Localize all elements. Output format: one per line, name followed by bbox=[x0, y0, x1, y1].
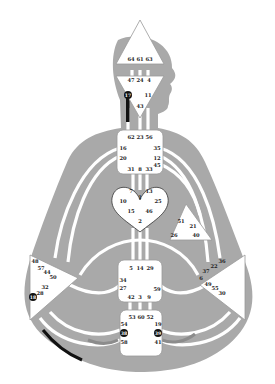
gate-33: 33 bbox=[145, 166, 153, 172]
gate-24: 24 bbox=[136, 77, 144, 83]
gate-21: 21 bbox=[189, 223, 197, 229]
gate-63: 63 bbox=[145, 56, 153, 62]
active-channel-17 bbox=[126, 98, 130, 122]
gate-36: 36 bbox=[218, 258, 226, 264]
gate-23: 23 bbox=[136, 134, 144, 140]
gate-38: 38 bbox=[121, 331, 127, 336]
gate-45: 45 bbox=[153, 162, 161, 168]
gate-42: 42 bbox=[127, 294, 135, 300]
gate-51: 51 bbox=[177, 218, 185, 224]
gate-8: 8 bbox=[138, 166, 142, 172]
gate-16: 16 bbox=[119, 145, 127, 151]
bodygraph: 64 61 63 47 24 4 17 11 43 62 23 56 16 35… bbox=[0, 0, 275, 384]
gate-40: 40 bbox=[192, 232, 200, 238]
gate-15: 15 bbox=[127, 208, 135, 214]
gate-7: 7 bbox=[129, 188, 133, 194]
gate-37: 37 bbox=[202, 268, 210, 274]
gate-25: 25 bbox=[154, 198, 162, 204]
gate-61: 61 bbox=[136, 56, 144, 62]
gate-6: 6 bbox=[199, 275, 203, 281]
gate-43: 43 bbox=[136, 103, 144, 109]
gate-17: 17 bbox=[125, 93, 131, 98]
gate-9: 9 bbox=[147, 294, 151, 300]
gate-1: 1 bbox=[138, 194, 142, 200]
gate-59: 59 bbox=[153, 286, 161, 292]
gate-58: 58 bbox=[120, 339, 128, 345]
gate-26: 26 bbox=[170, 232, 178, 238]
gate-29: 29 bbox=[146, 265, 154, 271]
gate-10: 10 bbox=[119, 198, 127, 204]
gate-28: 28 bbox=[36, 290, 44, 296]
gate-47: 47 bbox=[127, 77, 135, 83]
gate-3: 3 bbox=[138, 294, 142, 300]
gate-50: 50 bbox=[49, 274, 57, 280]
gate-39: 39 bbox=[155, 331, 161, 336]
gate-54: 54 bbox=[120, 321, 128, 327]
gate-20: 20 bbox=[119, 155, 127, 161]
gate-56: 56 bbox=[145, 134, 153, 140]
gate-22: 22 bbox=[210, 263, 218, 269]
gate-60: 60 bbox=[137, 314, 145, 320]
gate-27: 27 bbox=[119, 285, 127, 291]
gate-13: 13 bbox=[145, 188, 153, 194]
gate-2: 2 bbox=[138, 218, 142, 224]
gate-35: 35 bbox=[153, 145, 161, 151]
gate-64: 64 bbox=[127, 56, 135, 62]
gate-52: 52 bbox=[146, 314, 154, 320]
gate-18: 18 bbox=[30, 295, 36, 300]
gate-4: 4 bbox=[147, 77, 151, 83]
gate-11: 11 bbox=[144, 92, 152, 98]
gate-5: 5 bbox=[129, 265, 133, 271]
gate-46: 46 bbox=[145, 208, 153, 214]
gate-62: 62 bbox=[127, 134, 135, 140]
gate-12: 12 bbox=[153, 155, 161, 161]
gate-34: 34 bbox=[119, 277, 127, 283]
gate-31: 31 bbox=[127, 166, 135, 172]
gate-14: 14 bbox=[136, 265, 144, 271]
gate-41: 41 bbox=[154, 339, 162, 345]
gate-19: 19 bbox=[154, 321, 162, 327]
gate-53: 53 bbox=[128, 314, 136, 320]
gate-30: 30 bbox=[218, 290, 226, 296]
gate-48: 48 bbox=[31, 258, 39, 264]
